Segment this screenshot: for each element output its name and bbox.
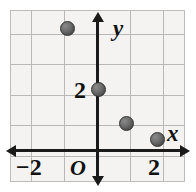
x-tick-label-positive-2: 2 (148, 155, 160, 179)
y-axis-label: y (113, 17, 123, 40)
x-axis-right-arrow-icon (180, 145, 190, 157)
data-point (60, 21, 75, 36)
data-point (119, 116, 134, 131)
x-axis-label: x (167, 122, 179, 145)
y-axis-down-arrow-icon (92, 176, 104, 186)
y-tick-label-2: 2 (74, 78, 86, 102)
coordinate-plane-figure: y x O −2 2 2 (0, 0, 196, 192)
data-point (91, 82, 106, 97)
origin-label: O (70, 157, 86, 179)
x-axis-left-arrow-icon (6, 145, 16, 157)
x-tick-label-negative-2: −2 (16, 155, 42, 179)
data-point (150, 132, 165, 147)
y-axis-line (96, 19, 99, 181)
y-axis-up-arrow-icon (92, 12, 104, 22)
